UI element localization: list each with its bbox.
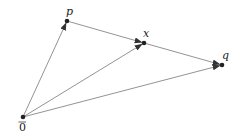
- label-x: x: [143, 27, 150, 40]
- arrow-origin-q: [23, 66, 220, 117]
- arrow-x-q: [144, 43, 220, 64]
- arrows-group: [23, 21, 220, 117]
- point-origin: [21, 115, 26, 120]
- label-q: q: [222, 49, 229, 62]
- arrow-origin-p: [23, 23, 66, 117]
- diagram-svg: 0pxq: [0, 0, 241, 139]
- points-group: 0pxq: [19, 5, 230, 134]
- point-x: [142, 41, 147, 46]
- point-p: [65, 19, 70, 24]
- label-p: p: [66, 5, 73, 18]
- arrow-origin-x: [23, 44, 142, 117]
- label-origin: 0: [19, 121, 26, 134]
- vector-diagram: 0pxq: [0, 0, 241, 139]
- arrow-p-x: [67, 21, 142, 42]
- point-q: [220, 63, 225, 68]
